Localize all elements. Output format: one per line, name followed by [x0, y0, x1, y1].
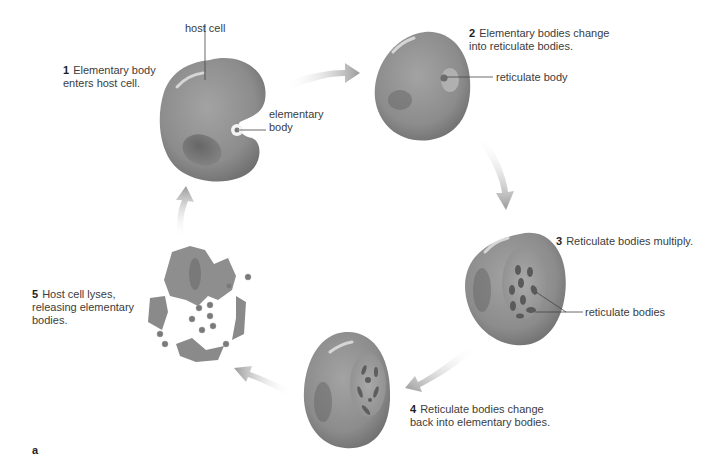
arrow-3-to-4: [405, 346, 472, 392]
host-cell-stage-1: [160, 24, 266, 182]
step-text: Reticulate bodies change: [420, 403, 544, 415]
reticulate-body: [441, 75, 448, 82]
host-cell-stage-3: [465, 233, 583, 346]
step-number: 1: [63, 64, 69, 76]
callout-host-cell: host cell: [185, 22, 225, 35]
callout-reticulate-bodies: reticulate bodies: [585, 306, 665, 319]
step-2-label: 2Elementary bodies change into reticulat…: [469, 27, 609, 53]
elementary-body: [235, 128, 240, 133]
step-text: Elementary bodies change: [479, 27, 609, 39]
step-1-label: 1Elementary body enters host cell.: [63, 64, 156, 90]
step-text: Elementary body: [73, 64, 156, 76]
arrow-4-to-5: [234, 366, 292, 396]
step-text: into reticulate bodies.: [469, 40, 609, 53]
step-text: Reticulate bodies multiply.: [566, 235, 693, 247]
step-4-label: 4Reticulate bodies change back into elem…: [410, 403, 550, 429]
diagram: 1Elementary body enters host cell. host …: [0, 0, 716, 467]
arrow-1-to-2: [285, 63, 360, 90]
arrow-5-to-1: [176, 186, 194, 238]
step-text: back into elementary bodies.: [410, 416, 550, 429]
host-cell-stage-4: [304, 332, 390, 448]
step-number: 4: [410, 403, 416, 415]
step-number: 5: [32, 288, 38, 300]
step-number: 2: [469, 27, 475, 39]
callout-elementary-body: elementary body: [269, 108, 323, 134]
callout-text: elementary: [269, 108, 323, 121]
step-text: bodies.: [32, 314, 134, 327]
panel-letter: a: [32, 444, 38, 456]
arrow-2-to-3: [478, 136, 514, 210]
step-text: enters host cell.: [63, 77, 156, 90]
step-3-label: 3Reticulate bodies multiply.: [556, 235, 693, 248]
host-cell-stage-5-lysed: [148, 246, 251, 362]
callout-text: body: [269, 121, 323, 134]
step-number: 3: [556, 235, 562, 247]
callout-reticulate-body: reticulate body: [496, 71, 568, 84]
step-text: Host cell lyses,: [42, 288, 115, 300]
step-text: releasing elementary: [32, 301, 134, 314]
step-5-label: 5Host cell lyses, releasing elementary b…: [32, 288, 134, 327]
